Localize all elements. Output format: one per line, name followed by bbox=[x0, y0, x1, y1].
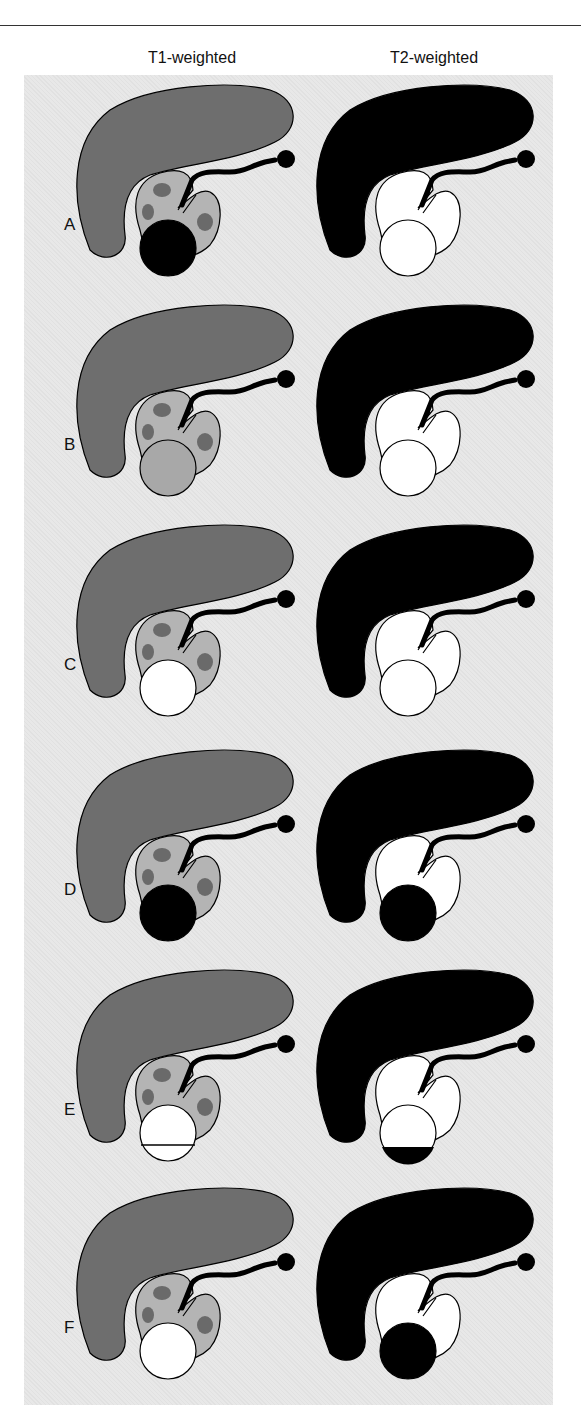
medulla bbox=[142, 424, 154, 440]
lesion bbox=[140, 1105, 196, 1161]
round-structure bbox=[517, 1035, 535, 1053]
lesion bbox=[380, 220, 436, 276]
lesion bbox=[380, 440, 436, 496]
round-structure bbox=[517, 150, 535, 168]
lesion bbox=[140, 440, 196, 496]
medulla bbox=[197, 1316, 213, 1334]
lesion bbox=[140, 660, 196, 716]
medulla bbox=[142, 204, 154, 220]
medulla bbox=[197, 878, 213, 896]
lesion bbox=[140, 885, 196, 941]
medulla bbox=[153, 848, 171, 862]
header-t1-weighted: T1-weighted bbox=[148, 49, 236, 67]
diagram-cell-f-t2 bbox=[290, 1183, 540, 1393]
round-structure bbox=[517, 815, 535, 833]
lesion bbox=[380, 1323, 436, 1379]
diagram-cell-e-t1 bbox=[50, 965, 300, 1175]
diagram-cell-e-t2 bbox=[290, 965, 540, 1175]
fluid-level bbox=[382, 1147, 434, 1165]
round-structure bbox=[517, 1253, 535, 1271]
medulla bbox=[197, 1098, 213, 1116]
diagram-cell-b-t1 bbox=[50, 300, 300, 510]
medulla bbox=[142, 869, 154, 885]
header-t2-weighted: T2-weighted bbox=[390, 49, 478, 67]
lesion bbox=[380, 885, 436, 941]
diagram-cell-f-t1 bbox=[50, 1183, 300, 1393]
medulla bbox=[197, 433, 213, 451]
lesion bbox=[140, 220, 196, 276]
diagram-cell-d-t2 bbox=[290, 745, 540, 955]
lesion bbox=[380, 660, 436, 716]
diagram-cell-a-t2 bbox=[290, 80, 540, 290]
lesion bbox=[140, 1323, 196, 1379]
medulla bbox=[197, 213, 213, 231]
medulla bbox=[153, 1286, 171, 1300]
medulla bbox=[153, 403, 171, 417]
round-structure bbox=[517, 370, 535, 388]
medulla bbox=[153, 183, 171, 197]
medulla bbox=[142, 644, 154, 660]
diagram-cell-b-t2 bbox=[290, 300, 540, 510]
round-structure bbox=[517, 590, 535, 608]
medulla bbox=[153, 1068, 171, 1082]
medulla bbox=[197, 653, 213, 671]
diagram-cell-d-t1 bbox=[50, 745, 300, 955]
diagram-cell-c-t1 bbox=[50, 520, 300, 730]
medulla bbox=[153, 623, 171, 637]
diagram-cell-c-t2 bbox=[290, 520, 540, 730]
diagram-cell-a-t1 bbox=[50, 80, 300, 290]
medulla bbox=[142, 1089, 154, 1105]
medulla bbox=[142, 1307, 154, 1323]
top-rule bbox=[0, 25, 581, 26]
